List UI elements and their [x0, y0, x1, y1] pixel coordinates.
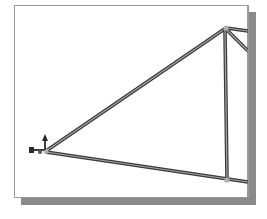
joint-c[interactable] — [224, 177, 229, 182]
joint-b[interactable] — [223, 25, 228, 30]
member-top-chord[interactable] — [46, 28, 226, 151]
viewport-right-edge — [248, 5, 249, 198]
member-bottom-chord[interactable] — [46, 152, 248, 182]
member-diagonal-right[interactable] — [227, 30, 248, 51]
truss-drawing — [0, 0, 267, 219]
member-vertical[interactable] — [225, 29, 227, 180]
